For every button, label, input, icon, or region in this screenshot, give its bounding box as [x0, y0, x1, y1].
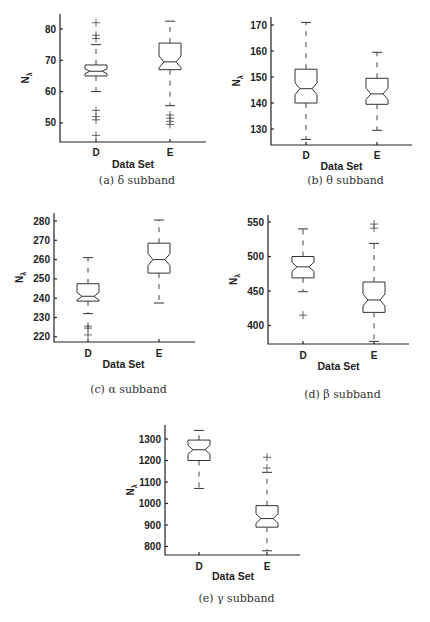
y-axis-label: Nλ [20, 72, 33, 83]
box-D [292, 229, 314, 319]
axes [268, 215, 409, 344]
x-axis-label: Data Set [320, 160, 363, 172]
ytick-label: 450 [247, 286, 264, 297]
ytick-label: 900 [144, 520, 161, 531]
box-E [363, 220, 385, 341]
y-axis-label: Nλ [231, 75, 244, 86]
axes [271, 17, 412, 145]
ytick-label: 550 [247, 217, 264, 228]
ytick-label: 220 [33, 331, 50, 342]
ytick-label: 50 [45, 117, 57, 128]
ytick-label: 240 [33, 293, 50, 304]
ytick-label: 160 [250, 46, 267, 57]
y-axis-label: Nλ [125, 484, 138, 495]
y-axis-label: Nλ [228, 274, 241, 285]
x-axis-label: Data Set [317, 360, 360, 372]
xtick-label: D [84, 348, 91, 359]
y-axis-label: Nλ [14, 272, 27, 283]
xtick-label: D [195, 561, 202, 572]
ytick-label: 1300 [139, 434, 162, 445]
xtick-label: E [156, 348, 163, 359]
box-D [295, 22, 317, 139]
ytick-label: 130 [250, 124, 267, 135]
axes [60, 14, 206, 142]
subplot-d: 400450500550DEData SetNλ(d) β subband [228, 215, 409, 401]
xtick-label: E [374, 150, 381, 161]
axes [54, 213, 195, 342]
subplot-c: 220230240250260270280DEData SetNλ(c) α s… [14, 213, 195, 396]
ytick-label: 500 [247, 251, 264, 262]
box-D [85, 19, 107, 140]
ytick-label: 1000 [139, 498, 162, 509]
ytick-label: 150 [250, 72, 267, 83]
box-E [256, 453, 278, 551]
box-D [188, 430, 210, 488]
box-E [148, 220, 170, 303]
xtick-label: E [167, 147, 174, 158]
axes [165, 425, 300, 555]
subplot-caption: (e) γ subband [198, 592, 274, 605]
ytick-label: 170 [250, 20, 267, 31]
x-axis-label: Data Set [112, 158, 155, 170]
box-E [366, 52, 388, 130]
subplot-e: 8009001000110012001300DEData SetNλ(e) γ … [125, 425, 300, 605]
xtick-label: E [371, 350, 378, 361]
box-D [77, 258, 99, 339]
ytick-label: 800 [144, 541, 161, 552]
ytick-label: 250 [33, 273, 50, 284]
box-E [159, 21, 181, 128]
ytick-label: 80 [45, 24, 57, 35]
xtick-label: D [302, 150, 309, 161]
subplot-caption: (d) β subband [304, 388, 380, 401]
ytick-label: 1100 [139, 477, 161, 488]
x-axis-label: Data Set [102, 358, 145, 370]
xtick-label: D [299, 350, 306, 361]
ytick-label: 140 [250, 98, 267, 109]
x-axis-label: Data Set [212, 570, 255, 582]
ytick-label: 60 [45, 86, 57, 97]
subplot-caption: (c) α subband [90, 383, 167, 396]
ytick-label: 270 [33, 235, 50, 246]
ytick-label: 260 [33, 254, 50, 265]
ytick-label: 400 [247, 320, 264, 331]
ytick-label: 230 [33, 312, 50, 323]
ytick-label: 1200 [139, 455, 162, 466]
subplot-caption: (a) δ subband [99, 174, 175, 187]
ytick-label: 70 [45, 55, 57, 66]
xtick-label: D [92, 147, 99, 158]
xtick-label: E [264, 561, 271, 572]
ytick-label: 280 [33, 216, 50, 227]
subplot-b: 130140150160170DEData SetNλ(b) θ subband [231, 17, 412, 187]
subplot-caption: (b) θ subband [307, 174, 384, 187]
figure: 50607080DEData SetNλ(a) δ subband 130140… [0, 0, 430, 622]
subplot-a: 50607080DEData SetNλ(a) δ subband [20, 14, 206, 187]
